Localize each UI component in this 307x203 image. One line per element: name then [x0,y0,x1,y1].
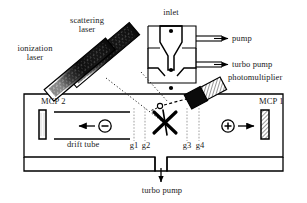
beam-dot-skimmer1 [169,68,173,72]
beam-dot-skimmer2 [169,86,173,90]
photomultiplier-label: photomultiplier [228,73,282,83]
ionization-laser-label-line2: laser [8,53,62,63]
pump-label: pump [232,34,252,44]
drift-tube-label: drift tube [67,140,99,150]
grid-label-g4: g4 [192,141,208,151]
grid-label-g2: g2 [138,141,154,151]
diagram-canvas: ionization laser scattering laser inlet … [0,0,307,203]
scattered-light-path [150,98,190,111]
mcp1-label: MCP 1 [259,97,284,107]
mcp2-label: MCP 2 [41,97,66,107]
turbo-pump-label-right: turbo pump [232,60,272,70]
negative-ion-symbol [79,120,111,132]
positive-ion-symbol [222,120,254,132]
beam-dot-nozzle [169,29,173,33]
inlet-assembly [148,26,196,90]
pump-duct-lower [196,62,228,67]
interaction-point-x [154,110,176,135]
photomultiplier-unit [184,76,227,109]
pump-duct-upper [196,36,228,41]
inlet-label: inlet [150,8,192,18]
mcp2-detector [39,110,46,139]
scattering-laser-label-line2: laser [56,25,118,35]
mcp1-detector [261,110,269,139]
turbo-pump-label-bottom: turbo pump [126,186,198,196]
